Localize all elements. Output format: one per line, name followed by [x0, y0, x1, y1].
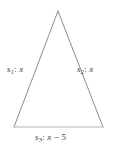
base-side-operator: − — [54, 132, 59, 142]
base-side-separator: : — [42, 132, 45, 142]
left-side-label: s1: x — [7, 65, 23, 74]
left-side-subscript: 1 — [11, 68, 14, 75]
base-side-operand: 5 — [62, 132, 67, 142]
base-side-subscript: 3 — [39, 136, 42, 143]
triangle-shape — [0, 0, 115, 150]
base-side-label: s3: x − 5 — [35, 133, 66, 142]
right-side-subscript: 2 — [81, 68, 84, 75]
left-side-value: x — [19, 64, 23, 74]
left-side-separator: : — [14, 64, 17, 74]
right-side-separator: : — [84, 64, 87, 74]
right-side-value: x — [89, 64, 93, 74]
base-side-value: x — [47, 132, 51, 142]
triangle-figure: s1: x s2: x s3: x − 5 — [0, 0, 115, 150]
right-side-label: s2: x — [77, 65, 93, 74]
